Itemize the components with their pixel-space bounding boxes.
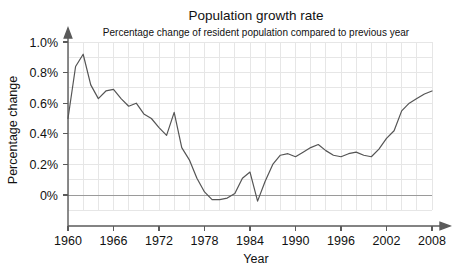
y-tick-label: 0.6% bbox=[30, 97, 59, 111]
x-tick-label: 1984 bbox=[236, 234, 264, 248]
x-tick-label: 2008 bbox=[418, 234, 446, 248]
y-axis-ticks: 1.0%0.8%0.6%0.4%0.2%0% bbox=[30, 36, 69, 203]
x-axis-arrowhead bbox=[440, 222, 450, 230]
chart-subtitle: Percentage change of resident population… bbox=[103, 27, 410, 38]
x-tick-label: 2002 bbox=[373, 234, 401, 248]
y-axis-arrowhead bbox=[64, 28, 72, 38]
y-axis-title: Percentage change bbox=[6, 76, 20, 184]
y-tick-label: 1.0% bbox=[30, 36, 59, 50]
y-tick-label: 0.4% bbox=[30, 127, 59, 141]
x-axis-ticks: 196019661972197819841990199620022008 bbox=[54, 226, 446, 248]
y-tick-label: 0% bbox=[40, 189, 58, 203]
chart-gridlines bbox=[68, 42, 432, 210]
x-tick-label: 1978 bbox=[191, 234, 219, 248]
chart-title: Population growth rate bbox=[188, 8, 323, 23]
y-axis-group: 1.0%0.8%0.6%0.4%0.2%0% bbox=[30, 28, 72, 226]
y-tick-label: 0.8% bbox=[30, 66, 59, 80]
x-tick-label: 1966 bbox=[100, 234, 128, 248]
x-tick-label: 1990 bbox=[282, 234, 310, 248]
x-axis-title: Year bbox=[243, 252, 268, 266]
x-axis-group: 196019661972197819841990199620022008 bbox=[54, 222, 450, 248]
y-tick-label: 0.2% bbox=[30, 158, 59, 172]
x-tick-label: 1996 bbox=[327, 234, 355, 248]
population-growth-rate-chart: 1.0%0.8%0.6%0.4%0.2%0% 19601966197219781… bbox=[0, 0, 460, 270]
chart-canvas: 1.0%0.8%0.6%0.4%0.2%0% 19601966197219781… bbox=[0, 0, 460, 270]
x-tick-label: 1972 bbox=[145, 234, 173, 248]
x-tick-label: 1960 bbox=[54, 234, 82, 248]
